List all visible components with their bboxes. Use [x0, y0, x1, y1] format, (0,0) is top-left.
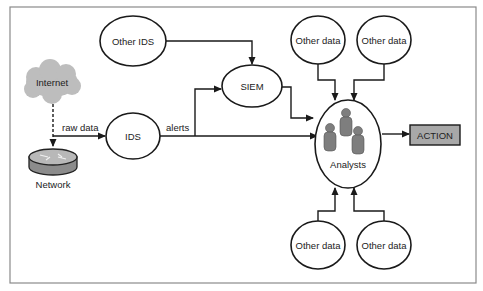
ids-label: IDS: [125, 131, 141, 142]
analysts-node: Analysts: [315, 100, 381, 188]
siem-node: SIEM: [222, 65, 282, 107]
other-data-bottom-left-node: Other data: [291, 221, 345, 269]
other-data-label: Other data: [296, 35, 342, 46]
router-icon: [29, 149, 77, 175]
edge-label-raw-data: raw data: [62, 122, 99, 133]
analysts-label: Analysts: [330, 159, 366, 170]
other-data-label: Other data: [362, 35, 408, 46]
internet-label: Internet: [36, 77, 69, 88]
ids-node: IDS: [106, 113, 160, 159]
other-data-bottom-right-node: Other data: [357, 221, 411, 269]
other-data-top-left-node: Other data: [291, 16, 345, 64]
other-data-label: Other data: [362, 240, 408, 251]
ids-workflow-diagram: raw data alerts Internet Network Other I…: [0, 0, 483, 291]
network-node: Network: [29, 149, 77, 190]
other-data-top-right-node: Other data: [357, 16, 411, 64]
other-ids-label: Other IDS: [112, 36, 154, 47]
action-node: ACTION: [410, 125, 460, 145]
action-label: ACTION: [417, 130, 453, 141]
siem-label: SIEM: [240, 81, 263, 92]
other-ids-node: Other IDS: [100, 16, 166, 66]
other-data-label: Other data: [296, 240, 342, 251]
network-label: Network: [36, 179, 71, 190]
edge-label-alerts: alerts: [166, 122, 189, 133]
